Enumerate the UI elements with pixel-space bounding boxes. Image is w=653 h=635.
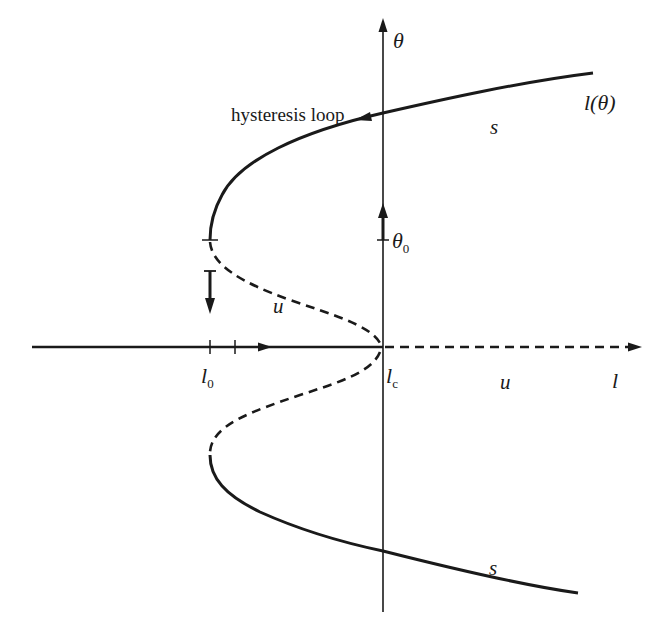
unstable-axis-label: u [500, 372, 511, 393]
flow-arrow-right-icon [258, 343, 272, 352]
theta-axis-label: θ [393, 30, 404, 52]
lc-label: lc [386, 365, 398, 387]
lower-unstable-branch [210, 352, 380, 452]
upper-stable-label: s [490, 117, 498, 138]
upper-unstable-branch [210, 242, 380, 343]
l-axis-arrow-icon [628, 343, 642, 352]
theta0-arrow-up-icon [378, 203, 388, 218]
diagram-canvas [0, 0, 653, 635]
flow-arrow-left-icon [355, 112, 372, 121]
lower-stable-branch [210, 455, 578, 593]
upper-stable-branch [210, 73, 593, 240]
jump-arrow-down-icon [205, 298, 215, 314]
curve-label: l(θ) [584, 92, 616, 114]
theta0-subscript: 0 [403, 241, 410, 256]
l0-label: l0 [201, 365, 214, 387]
theta0-symbol: θ [392, 228, 403, 253]
hysteresis-loop-label: hysteresis loop [231, 105, 344, 124]
l-axis-label: l [612, 370, 618, 392]
bifurcation-diagram: θ l l(θ) hysteresis loop s s u u θ0 l0 l… [0, 0, 653, 635]
lc-subscript: c [392, 376, 398, 391]
theta0-label: θ0 [392, 230, 409, 252]
l0-subscript: 0 [207, 376, 214, 391]
lower-stable-label: s [489, 558, 497, 579]
theta-axis-arrow-icon [379, 18, 388, 32]
unstable-branch-label: u [273, 296, 284, 317]
